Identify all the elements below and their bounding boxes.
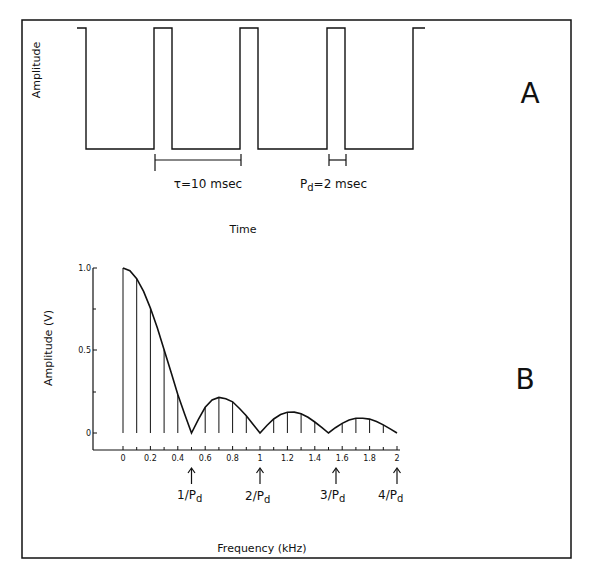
null-markers xyxy=(188,468,401,484)
x-tick-label: 0.8 xyxy=(226,454,239,463)
panel-a-ylabel: Amplitude xyxy=(30,42,43,99)
pulse-train-waveform xyxy=(77,28,425,149)
marker-1-over-pd: 1/Pd xyxy=(177,488,202,504)
pd-annotation: Pd=2 msec xyxy=(300,177,367,193)
panel-b-ylabel: Amplitude (V) xyxy=(42,310,55,386)
panel-b-label: B xyxy=(515,363,534,396)
marker-4-over-pd: 4/Pd xyxy=(378,488,403,504)
panel-b: Amplitude (V) 1.0 0.5 0 xyxy=(42,264,535,555)
x-tick-label: 2 xyxy=(394,454,399,463)
panel-a-label: A xyxy=(520,77,539,110)
panel-b-xlabel: Frequency (kHz) xyxy=(217,542,306,555)
figure: Amplitude A τ=10 msec Pd=2 msec Time Amp… xyxy=(0,0,589,572)
x-tick-label: 0.2 xyxy=(144,454,157,463)
tau-annotation: τ=10 msec xyxy=(174,177,242,191)
panel-a-xlabel: Time xyxy=(229,223,257,236)
x-tick-label: 0.6 xyxy=(199,454,212,463)
x-tick-label: 0.4 xyxy=(171,454,184,463)
x-tick-label: 0 xyxy=(120,454,125,463)
y-tick-label: 0 xyxy=(86,429,91,438)
y-tick-label: 0.5 xyxy=(78,346,91,355)
spectral-lines xyxy=(123,268,383,433)
x-tick-label: 1.4 xyxy=(308,454,321,463)
marker-3-over-pd: 3/Pd xyxy=(320,488,345,504)
x-tick-label: 1.8 xyxy=(363,454,376,463)
x-tick-label: 1.6 xyxy=(336,454,349,463)
x-tick-labels: 0 0.2 0.4 0.6 0.8 1 1.2 1.4 1.6 1.8 2 xyxy=(120,454,399,463)
y-tick-label: 1.0 xyxy=(78,264,91,273)
tau-bracket xyxy=(155,154,241,171)
pd-bracket xyxy=(329,154,346,166)
x-tick-label: 1.2 xyxy=(281,454,294,463)
x-ticks xyxy=(123,446,397,450)
figure-border xyxy=(22,20,571,558)
panel-a: Amplitude A τ=10 msec Pd=2 msec Time xyxy=(30,28,540,236)
x-tick-label: 1 xyxy=(257,454,262,463)
marker-2-over-pd: 2/Pd xyxy=(245,489,270,505)
